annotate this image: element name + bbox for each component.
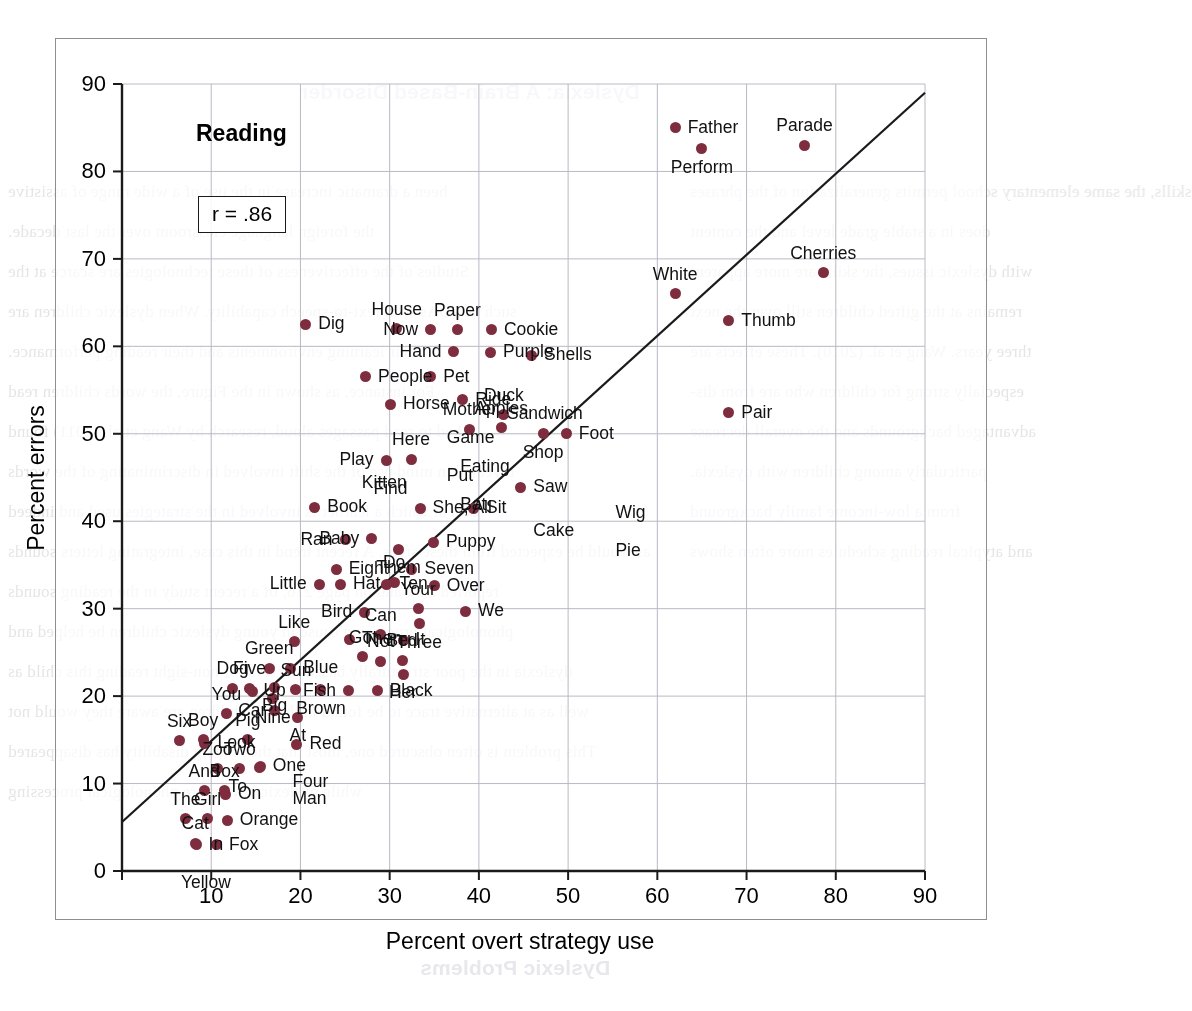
y-axis-tick-label: 10 bbox=[82, 773, 106, 795]
scatter-point-label: Hand bbox=[400, 343, 442, 361]
scatter-point bbox=[191, 839, 202, 850]
x-axis-tick-label: 80 bbox=[824, 885, 848, 907]
scatter-point-label: Pair bbox=[741, 404, 772, 422]
scatter-point-label: Red bbox=[309, 735, 341, 753]
scatter-point bbox=[381, 455, 392, 466]
scatter-point-label: Here bbox=[392, 431, 430, 449]
scatter-point-label: White bbox=[653, 266, 698, 284]
scatter-point bbox=[414, 618, 425, 629]
scatter-point bbox=[670, 122, 681, 133]
scatter-point bbox=[538, 428, 549, 439]
x-axis-tick-label: 60 bbox=[645, 885, 669, 907]
scatter-point bbox=[485, 347, 496, 358]
scatter-point-label: Paper bbox=[434, 302, 481, 320]
scatter-point bbox=[406, 454, 417, 465]
scatter-point-label: Pig bbox=[235, 712, 260, 730]
y-axis-tick-label: 0 bbox=[94, 860, 106, 882]
scatter-point-label: Dig bbox=[318, 316, 344, 334]
scatter-point bbox=[460, 606, 471, 617]
x-axis-tick-label: 90 bbox=[913, 885, 937, 907]
scatter-point-label: Cherries bbox=[790, 245, 856, 263]
scatter-point-label: Now bbox=[383, 321, 418, 339]
scatter-point-label: Cake bbox=[533, 523, 574, 541]
scatter-point-label: Pie bbox=[615, 542, 640, 560]
y-axis-tick-label: 40 bbox=[82, 510, 106, 532]
panel-title: Reading bbox=[196, 120, 287, 147]
scatter-point-label: You bbox=[212, 686, 242, 704]
scatter-point-label: Wig bbox=[615, 504, 645, 522]
scatter-point bbox=[222, 815, 233, 826]
scatter-point-label: Puppy bbox=[446, 533, 496, 551]
scatter-point-label: At bbox=[289, 727, 306, 745]
scatter-point bbox=[496, 422, 507, 433]
scatter-point-label: House bbox=[372, 301, 423, 319]
scatter-point bbox=[515, 482, 526, 493]
scatter-point-label: Bird bbox=[321, 603, 352, 621]
y-axis-tick-label: 50 bbox=[82, 423, 106, 445]
y-axis-tick-label: 20 bbox=[82, 685, 106, 707]
scatter-point-label: Book bbox=[327, 498, 367, 516]
x-axis-tick-label: 50 bbox=[556, 885, 580, 907]
scatter-point bbox=[247, 686, 258, 697]
scatter-point bbox=[335, 579, 346, 590]
y-axis-tick-label: 60 bbox=[82, 335, 106, 357]
scatter-point-label: Like bbox=[278, 614, 310, 632]
scatter-point bbox=[670, 288, 681, 299]
y-axis-title: Percent errors bbox=[23, 405, 50, 551]
correlation-annotation: r = .86 bbox=[198, 196, 286, 233]
scatter-point-label: Over bbox=[447, 577, 485, 595]
scatter-point-label: Sandwich bbox=[507, 405, 583, 423]
scatter-point bbox=[415, 503, 426, 514]
scatter-point-label: Foot bbox=[579, 425, 614, 443]
y-axis-tick-label: 70 bbox=[82, 248, 106, 270]
scatter-point-label: Play bbox=[340, 451, 374, 469]
scatter-point bbox=[398, 669, 409, 680]
scatter-point-label: Two bbox=[224, 741, 256, 759]
x-axis-title: Percent overt strategy use bbox=[386, 928, 654, 955]
scatter-point-label: In bbox=[209, 836, 224, 854]
scatter-point-label: Bed bbox=[387, 633, 418, 651]
scatter-point-label: On bbox=[238, 785, 261, 803]
y-axis-tick-label: 90 bbox=[82, 73, 106, 95]
scatter-point-label: Baby bbox=[319, 530, 359, 548]
scatter-point-label: Brown bbox=[296, 700, 346, 718]
scatter-point-label: She, All bbox=[433, 499, 492, 517]
scatter-point-label: Box bbox=[210, 763, 240, 781]
scatter-point-label: Find bbox=[373, 480, 407, 498]
scatter-point-label: Fish bbox=[303, 682, 336, 700]
scatter-point bbox=[221, 708, 232, 719]
scatter-point-label: Fox bbox=[229, 836, 258, 854]
scatter-point bbox=[799, 140, 810, 151]
scatter-point bbox=[375, 656, 386, 667]
scatter-point-label: Thumb bbox=[741, 312, 795, 330]
scatter-point-label: Dog bbox=[217, 660, 249, 678]
scatter-point-label: Saw bbox=[533, 478, 567, 496]
scatter-point-label: Sun bbox=[280, 662, 311, 680]
scatter-point-label: Your bbox=[401, 581, 436, 599]
scatter-point-label: Parade bbox=[776, 117, 832, 135]
x-axis-tick-label: 40 bbox=[467, 885, 491, 907]
scatter-point-label: Green bbox=[245, 640, 294, 658]
scatter-point-label: Shells bbox=[544, 346, 592, 364]
scatter-point bbox=[331, 564, 342, 575]
scatter-point-label: People bbox=[378, 368, 433, 386]
x-axis-tick-label: 30 bbox=[377, 885, 401, 907]
scatter-point-label: Can bbox=[365, 607, 397, 625]
x-axis-tick-label: 70 bbox=[734, 885, 758, 907]
scatter-point-label: Father bbox=[688, 119, 739, 137]
y-axis-tick-label: 80 bbox=[82, 160, 106, 182]
scatter-point-label: Eating bbox=[460, 458, 510, 476]
scatter-point-label: Pet bbox=[443, 368, 469, 386]
x-axis-tick-label: 20 bbox=[288, 885, 312, 907]
y-axis-tick-label: 30 bbox=[82, 598, 106, 620]
scatter-point bbox=[413, 603, 424, 614]
scatter-point bbox=[314, 579, 325, 590]
scatter-point bbox=[174, 735, 185, 746]
scatter-point-label: Shop bbox=[523, 444, 564, 462]
scatter-point-label: Game bbox=[447, 429, 495, 447]
scatter-point-label: Boy bbox=[188, 712, 218, 730]
scatter-point-label: Yellow bbox=[181, 874, 231, 892]
scatter-point bbox=[397, 655, 408, 666]
scatter-point-label: Up bbox=[263, 682, 285, 700]
